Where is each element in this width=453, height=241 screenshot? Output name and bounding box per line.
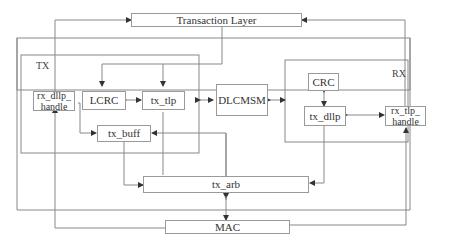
tx-tlp-block: tx_tlp: [142, 91, 185, 110]
transaction-layer-block: Transaction Layer: [131, 13, 302, 27]
lcrc-block: LCRC: [82, 91, 126, 110]
rx-tlp-handle-block: rx_tlp_ handle: [385, 106, 426, 126]
crc-block: CRC: [308, 73, 339, 91]
tx-buff-block: tx_buff: [97, 125, 151, 142]
rx-dllp-handle-block: rx_dllp_ handle: [33, 91, 75, 111]
mac-block: MAC: [165, 220, 290, 234]
tx-group-label: TX: [36, 60, 49, 71]
tx-dllp-block: tx_dllp: [304, 106, 346, 126]
dlcmsm-block: DLCMSM: [216, 84, 268, 116]
rx-group-border: [285, 60, 408, 142]
rx-group-label: RX: [392, 68, 406, 79]
tx-arb-block: tx_arb: [143, 176, 309, 193]
